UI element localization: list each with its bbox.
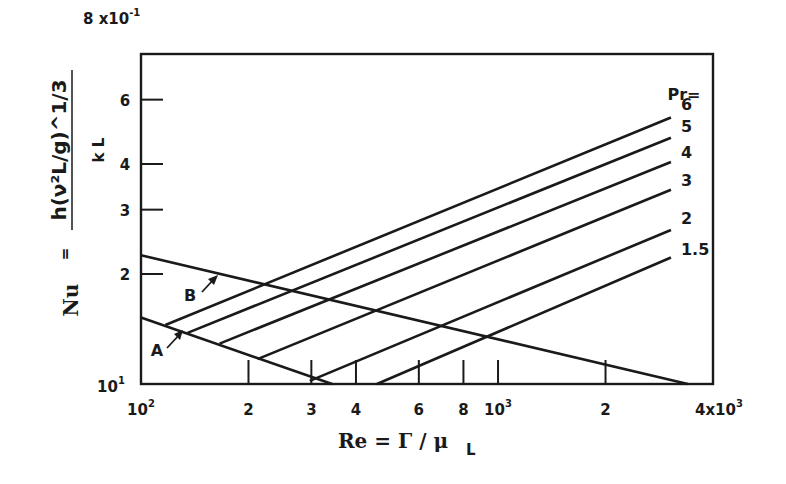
y-tick-label: 6 (120, 92, 130, 110)
pr-label: 2 (681, 209, 692, 228)
y-axis-equals: = (56, 248, 74, 261)
y-tick-label: 101 (97, 375, 125, 396)
series-line-Pr2 (310, 230, 671, 381)
x-tick-label: 4 (351, 401, 361, 419)
y-tick-label: 2 (120, 266, 130, 284)
x-axis-subscript: L (466, 441, 476, 459)
x-tick-label: 2 (600, 401, 610, 419)
x-axis-title: Re = Γ / μ (338, 429, 448, 453)
series-line-A (141, 318, 332, 384)
x-tick-label: 8 (458, 401, 468, 419)
x-tick-label: 2 (243, 401, 253, 419)
series-line-Pr5 (188, 138, 671, 333)
x-tick-label: 4x103 (695, 398, 743, 419)
annotation-b: B (184, 286, 196, 305)
annotation-a: A (151, 341, 164, 360)
y-axis-numerator: h(ν²L/g)^1/3 (47, 79, 71, 220)
y-tick-label: 8 x10-1 (83, 7, 140, 28)
x-tick-label: 102 (127, 398, 155, 419)
pr-label: 4 (681, 143, 692, 162)
chart-canvas: 1022346810324x10310123468 x10-1654321.5P… (0, 0, 786, 484)
y-axis-title: Nu=h(ν²L/g)^1/3k L (47, 70, 108, 316)
x-tick-label: 103 (484, 398, 512, 419)
y-tick-label: 3 (120, 202, 130, 220)
x-tick-label: 3 (306, 401, 316, 419)
pr-label: 3 (681, 171, 692, 190)
y-axis-nu: Nu (59, 284, 83, 317)
y-tick-label: 4 (120, 156, 130, 174)
series-line-Pr3 (258, 190, 671, 359)
y-axis-denominator: k L (90, 137, 108, 162)
pr-label: 5 (681, 117, 692, 136)
x-tick-label: 6 (414, 401, 424, 419)
series-line-Pr4 (220, 162, 671, 344)
pr-header: Pr= (667, 85, 700, 104)
pr-label: 1.5 (681, 240, 709, 259)
